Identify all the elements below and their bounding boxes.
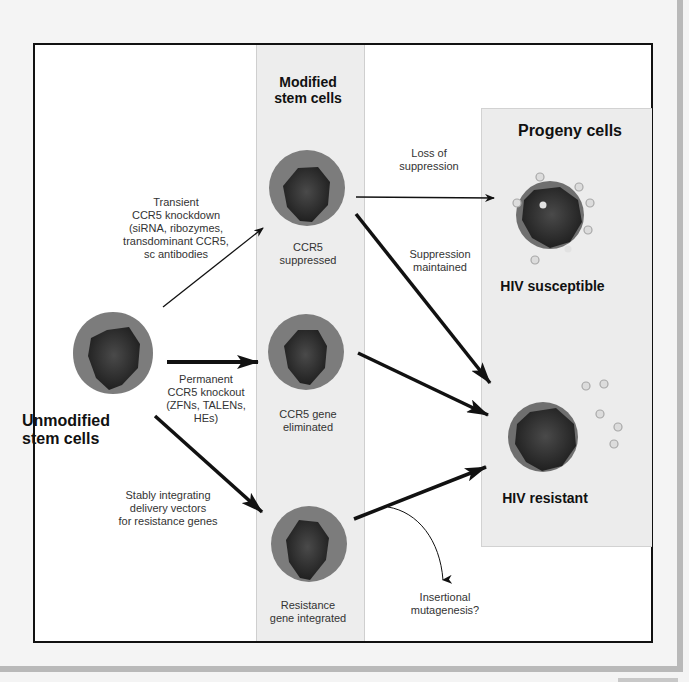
permanent-knockout-label: Permanent CCR5 knockout (ZFNs, TALENs, H… <box>162 373 250 425</box>
free-virion-icons <box>582 380 622 448</box>
arrow-integrated-to-resistant <box>354 467 486 519</box>
arrow-suppression-maintained <box>356 214 490 383</box>
ccr5-suppressed-label: CCR5 suppressed <box>255 241 361 267</box>
stable-integration-label: Stably integrating delivery vectors for … <box>108 489 228 528</box>
modified-stem-cells-title: Modified stem cells <box>255 74 361 106</box>
suppression-maintained-label: Suppression maintained <box>400 248 480 274</box>
hiv-resistant-cell-icon <box>508 402 578 472</box>
hiv-susceptible-cell-icon <box>516 181 584 253</box>
arrow-insertional-mutagenesis <box>388 507 443 580</box>
resistance-gene-cell-icon <box>271 506 347 582</box>
loss-of-suppression-label: Loss of suppression <box>389 147 469 173</box>
arrow-eliminated-to-resistant <box>358 353 488 415</box>
transient-knockdown-label: Transient CCR5 knockdown (siRNA, ribozym… <box>106 196 246 261</box>
resistance-gene-integrated-label: Resistance gene integrated <box>255 599 361 625</box>
ccr5-eliminated-cell-icon <box>268 314 344 390</box>
ccr5-suppressed-cell-icon <box>269 150 345 226</box>
insertional-mutagenesis-label: Insertional mutagenesis? <box>405 591 485 617</box>
arrow-loss-of-suppression <box>356 197 494 198</box>
unmodified-stem-cells-title: Unmodified stem cells <box>22 412 142 448</box>
hiv-susceptible-label: HIV susceptible <box>485 278 620 294</box>
ccr5-eliminated-label: CCR5 gene eliminated <box>255 408 361 434</box>
unmodified-stem-cell-icon <box>73 312 153 394</box>
progeny-cells-title: Progeny cells <box>485 122 655 140</box>
hiv-resistant-label: HIV resistant <box>480 490 610 506</box>
